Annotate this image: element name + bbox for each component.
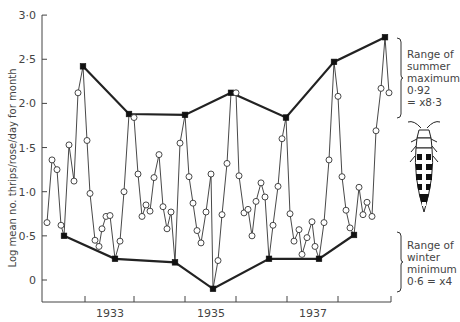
data-point-marker (296, 227, 302, 233)
extreme-point-marker (331, 59, 337, 65)
data-point-marker (309, 219, 315, 225)
data-point-marker (287, 211, 293, 217)
x-tick-label: 1935 (197, 307, 225, 320)
data-point-marker (378, 85, 384, 91)
data-point-marker (84, 137, 90, 143)
note-line: Range of (407, 239, 457, 251)
data-point-marker (208, 171, 214, 177)
y-tick-label: 2·0 (19, 97, 37, 110)
data-point-marker (164, 226, 170, 232)
x-tick-label: 1933 (96, 307, 124, 320)
data-point-marker (299, 251, 305, 257)
data-point-marker (270, 222, 276, 228)
extreme-point-marker (283, 115, 289, 121)
data-point-marker (49, 157, 55, 163)
data-point-marker (360, 212, 366, 218)
y-tick-label: 1·5 (19, 142, 37, 155)
extreme-point-marker (351, 232, 357, 238)
data-point-marker (343, 207, 349, 213)
data-point-marker (96, 243, 102, 249)
extreme-point-marker (112, 256, 118, 262)
data-point-marker (156, 152, 162, 158)
data-point-marker (339, 174, 345, 180)
data-point-marker (139, 213, 145, 219)
data-point-marker (275, 183, 281, 189)
extreme-point-marker (382, 34, 388, 40)
summer-max-envelope (83, 37, 385, 117)
data-point-marker (198, 240, 204, 246)
extreme-point-marker (316, 256, 322, 262)
data-point-marker (194, 228, 200, 234)
data-point-marker (386, 90, 392, 96)
data-point-marker (347, 225, 353, 231)
data-point-marker (219, 212, 225, 218)
data-point-marker (249, 233, 255, 239)
data-point-marker (160, 204, 166, 210)
note-line: Range of (407, 48, 460, 60)
y-tick-label: 0 (29, 274, 36, 287)
data-point-marker (236, 173, 242, 179)
winter-min-envelope (64, 235, 354, 289)
data-point-marker (147, 208, 153, 214)
y-axis-label: Log mean no. thrips/rose/day for month (7, 69, 18, 268)
data-point-marker (135, 171, 141, 177)
winter-range-note: Range of winter minimum 0·6 = x4 (407, 239, 457, 287)
data-point-marker (203, 209, 209, 215)
note-line: winter (407, 251, 457, 263)
extreme-point-marker (266, 256, 272, 262)
data-point-marker (44, 220, 50, 226)
data-point-marker (245, 206, 251, 212)
extreme-point-marker (172, 260, 178, 266)
data-point-marker (326, 157, 332, 163)
data-point-marker (312, 243, 318, 249)
data-point-marker (71, 178, 77, 184)
y-tick-label: 3·0 (19, 9, 37, 22)
data-point-marker (186, 174, 192, 180)
data-point-marker (258, 180, 264, 186)
summer-range-note: Range of summer maximum 0·92 = x8·3 (407, 48, 460, 108)
data-point-marker (92, 237, 98, 243)
data-point-marker (58, 222, 64, 228)
extreme-point-marker (210, 286, 216, 292)
data-series (44, 34, 392, 291)
data-point-marker (121, 189, 127, 195)
data-point-marker (335, 93, 341, 99)
data-point-marker (151, 175, 157, 181)
data-point-marker (168, 209, 174, 215)
extreme-point-marker (182, 112, 188, 118)
data-point-marker (369, 213, 375, 219)
y-tick-label: 0·5 (19, 230, 37, 243)
x-tick-label: 1937 (299, 307, 327, 320)
y-tick-label: 1·0 (19, 186, 37, 199)
data-point-marker (279, 136, 285, 142)
data-point-marker (215, 258, 221, 264)
data-point-marker (233, 90, 239, 96)
data-point-marker (143, 202, 149, 208)
note-line: summer (407, 60, 460, 72)
thrips-insect-icon (408, 122, 440, 212)
data-point-marker (75, 90, 81, 96)
data-point-marker (321, 220, 327, 226)
data-point-marker (131, 115, 137, 121)
data-point-marker (253, 198, 259, 204)
y-tick-label: 2·5 (19, 53, 37, 66)
data-point-marker (224, 160, 230, 166)
extreme-point-marker (61, 233, 67, 239)
data-point-marker (262, 194, 268, 200)
data-point-marker (364, 199, 370, 205)
data-point-marker (177, 140, 183, 146)
data-point-marker (107, 213, 113, 219)
data-point-marker (304, 235, 310, 241)
note-line: minimum (407, 263, 457, 275)
data-point-marker (190, 200, 196, 206)
summer-range-bracket (397, 38, 403, 118)
note-line: = x8·3 (407, 96, 460, 108)
note-line: 0·6 = x4 (407, 275, 457, 287)
range-brackets (397, 38, 403, 292)
data-point-marker (291, 238, 297, 244)
data-point-marker (117, 238, 123, 244)
winter-range-bracket (397, 232, 403, 292)
data-point-marker (66, 142, 72, 148)
data-point-marker (373, 128, 379, 134)
